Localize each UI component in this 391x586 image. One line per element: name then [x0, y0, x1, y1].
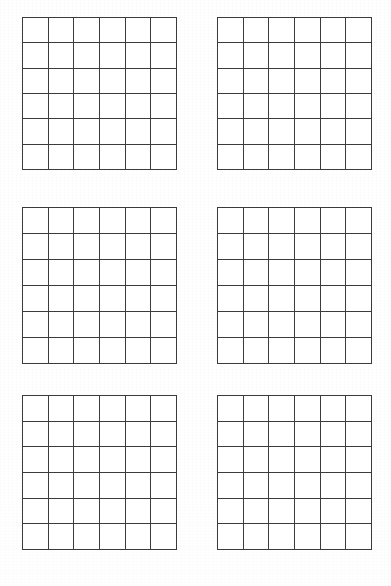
grid-cell[interactable]: [125, 338, 151, 364]
grid-cell[interactable]: [74, 396, 100, 422]
grid-cell[interactable]: [243, 68, 269, 93]
grid-cell[interactable]: [151, 144, 177, 169]
grid-cell[interactable]: [151, 447, 177, 473]
grid-cell[interactable]: [74, 472, 100, 498]
grid-cell[interactable]: [23, 498, 49, 524]
grid-cell[interactable]: [23, 93, 49, 118]
grid-cell[interactable]: [151, 93, 177, 118]
grid-cell[interactable]: [48, 447, 74, 473]
grid-cell[interactable]: [23, 396, 49, 422]
grid-cell[interactable]: [218, 43, 244, 68]
grid-cell[interactable]: [218, 312, 244, 338]
grid-cell[interactable]: [346, 119, 372, 144]
grid-cell[interactable]: [218, 447, 244, 473]
grid-cell[interactable]: [346, 396, 372, 422]
grid-cell[interactable]: [320, 43, 346, 68]
grid-cell[interactable]: [151, 260, 177, 286]
grid-cell[interactable]: [74, 524, 100, 550]
grid-cell[interactable]: [99, 421, 125, 447]
grid-cell[interactable]: [99, 18, 125, 43]
grid-cell[interactable]: [218, 119, 244, 144]
grid-cell[interactable]: [294, 472, 320, 498]
grid-cell[interactable]: [74, 144, 100, 169]
grid-cell[interactable]: [320, 260, 346, 286]
grid-cell[interactable]: [151, 472, 177, 498]
grid-cell[interactable]: [99, 144, 125, 169]
grid-cell[interactable]: [125, 18, 151, 43]
grid-cell[interactable]: [243, 234, 269, 260]
grid-cell[interactable]: [346, 472, 372, 498]
grid-cell[interactable]: [23, 208, 49, 234]
grid-cell[interactable]: [294, 312, 320, 338]
grid-cell[interactable]: [99, 524, 125, 550]
grid-cell[interactable]: [320, 144, 346, 169]
grid-cell[interactable]: [218, 421, 244, 447]
grid-cell[interactable]: [346, 144, 372, 169]
grid-cell[interactable]: [99, 68, 125, 93]
grid-cell[interactable]: [294, 286, 320, 312]
grid-cell[interactable]: [74, 208, 100, 234]
grid-cell[interactable]: [346, 498, 372, 524]
grid-cell[interactable]: [218, 144, 244, 169]
grid-cell[interactable]: [218, 286, 244, 312]
grid-cell[interactable]: [151, 396, 177, 422]
grid-cell[interactable]: [320, 498, 346, 524]
grid-cell[interactable]: [243, 338, 269, 364]
grid-cell[interactable]: [23, 144, 49, 169]
grid-cell[interactable]: [320, 421, 346, 447]
grid-cell[interactable]: [218, 93, 244, 118]
grid-cell[interactable]: [346, 312, 372, 338]
grid-cell[interactable]: [294, 68, 320, 93]
grid-cell[interactable]: [48, 472, 74, 498]
grid-cell[interactable]: [151, 119, 177, 144]
grid-cell[interactable]: [151, 498, 177, 524]
grid-cell[interactable]: [243, 286, 269, 312]
grid-cell[interactable]: [346, 260, 372, 286]
grid-cell[interactable]: [48, 43, 74, 68]
grid-cell[interactable]: [23, 312, 49, 338]
grid-cell[interactable]: [320, 312, 346, 338]
grid-cell[interactable]: [294, 498, 320, 524]
grid-cell[interactable]: [48, 498, 74, 524]
grid-cell[interactable]: [23, 447, 49, 473]
grid-cell[interactable]: [48, 421, 74, 447]
grid-cell[interactable]: [23, 119, 49, 144]
grid-cell[interactable]: [23, 421, 49, 447]
grid-cell[interactable]: [218, 234, 244, 260]
grid-cell[interactable]: [125, 68, 151, 93]
grid-cell[interactable]: [320, 18, 346, 43]
grid-cell[interactable]: [125, 447, 151, 473]
grid-cell[interactable]: [294, 524, 320, 550]
grid-cell[interactable]: [243, 260, 269, 286]
grid-cell[interactable]: [99, 312, 125, 338]
grid-cell[interactable]: [125, 43, 151, 68]
grid-cell[interactable]: [218, 396, 244, 422]
grid-cell[interactable]: [346, 93, 372, 118]
grid-cell[interactable]: [74, 260, 100, 286]
grid-cell[interactable]: [218, 260, 244, 286]
grid-cell[interactable]: [48, 68, 74, 93]
grid-cell[interactable]: [320, 396, 346, 422]
grid-cell[interactable]: [346, 338, 372, 364]
grid-cell[interactable]: [243, 144, 269, 169]
grid-cell[interactable]: [294, 93, 320, 118]
grid-cell[interactable]: [269, 68, 295, 93]
grid-cell[interactable]: [346, 234, 372, 260]
grid-cell[interactable]: [48, 312, 74, 338]
grid-cell[interactable]: [269, 286, 295, 312]
grid-cell[interactable]: [320, 447, 346, 473]
grid-cell[interactable]: [23, 286, 49, 312]
grid-cell[interactable]: [99, 260, 125, 286]
grid-cell[interactable]: [218, 68, 244, 93]
grid-cell[interactable]: [23, 43, 49, 68]
grid-cell[interactable]: [218, 524, 244, 550]
grid-cell[interactable]: [125, 93, 151, 118]
grid-cell[interactable]: [243, 312, 269, 338]
grid-cell[interactable]: [294, 421, 320, 447]
grid-cell[interactable]: [269, 396, 295, 422]
grid-cell[interactable]: [99, 208, 125, 234]
grid-cell[interactable]: [294, 18, 320, 43]
grid-cell[interactable]: [269, 18, 295, 43]
grid-cell[interactable]: [269, 234, 295, 260]
grid-cell[interactable]: [218, 472, 244, 498]
